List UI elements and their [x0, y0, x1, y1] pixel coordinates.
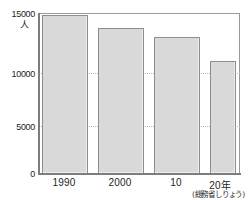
- source-note: (総務省しりょう): [192, 188, 245, 199]
- y-tick-label-5000: 5000: [0, 122, 35, 132]
- x-tick-label-10: 10: [153, 177, 199, 188]
- x-tick-label-1990: 1990: [41, 177, 87, 188]
- bar-1990: [42, 15, 88, 174]
- bars-layer: [38, 13, 240, 174]
- y-axis-unit-label: 人: [20, 18, 29, 31]
- y-tick-label-15000: 15000: [0, 9, 35, 19]
- x-tick-label-2000: 2000: [97, 177, 143, 188]
- y-axis-line: [38, 13, 40, 175]
- y-tick-label-0: 0: [0, 169, 35, 179]
- bar-2000: [98, 28, 144, 174]
- bar-chart: 15000 10000 5000 0 人 1990 2000 10 20年 (総…: [0, 0, 251, 200]
- bar-10: [154, 37, 200, 174]
- x-axis-line: [38, 173, 241, 175]
- y-tick-label-10000: 10000: [0, 69, 35, 79]
- bar-20: [210, 61, 236, 174]
